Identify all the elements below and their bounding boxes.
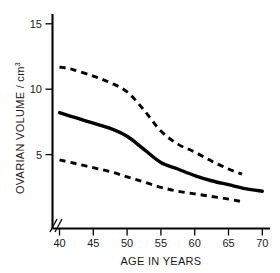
x-tick-label-60: 60 bbox=[189, 237, 201, 249]
x-tick-label-70: 70 bbox=[256, 237, 268, 249]
y-tick-label-15: 15 bbox=[30, 18, 42, 30]
ovarian-volume-chart: 15 10 5 40 45 50 55 60 65 70 AGE IN YEAR… bbox=[0, 0, 280, 273]
y-axis-title: OVARIAN VOLUME / cm3 bbox=[13, 62, 26, 194]
x-tick-label-65: 65 bbox=[222, 237, 234, 249]
curve-median bbox=[60, 113, 263, 191]
y-axis-title-superscript: 3 bbox=[13, 62, 22, 66]
data-curves bbox=[60, 67, 263, 202]
x-tick-label-40: 40 bbox=[53, 237, 65, 249]
x-tick-label-55: 55 bbox=[155, 237, 167, 249]
y-tick-label-5: 5 bbox=[36, 149, 42, 161]
chart-canvas: 15 10 5 40 45 50 55 60 65 70 AGE IN YEAR… bbox=[0, 0, 280, 273]
y-axis-title-text: OVARIAN VOLUME / cm bbox=[14, 66, 26, 194]
x-tick-label-50: 50 bbox=[121, 237, 133, 249]
x-axis-title: AGE IN YEARS bbox=[120, 255, 201, 267]
y-axis-title-group: OVARIAN VOLUME / cm3 bbox=[13, 62, 26, 194]
y-tick-label-10: 10 bbox=[30, 83, 42, 95]
x-tick-label-45: 45 bbox=[87, 237, 99, 249]
